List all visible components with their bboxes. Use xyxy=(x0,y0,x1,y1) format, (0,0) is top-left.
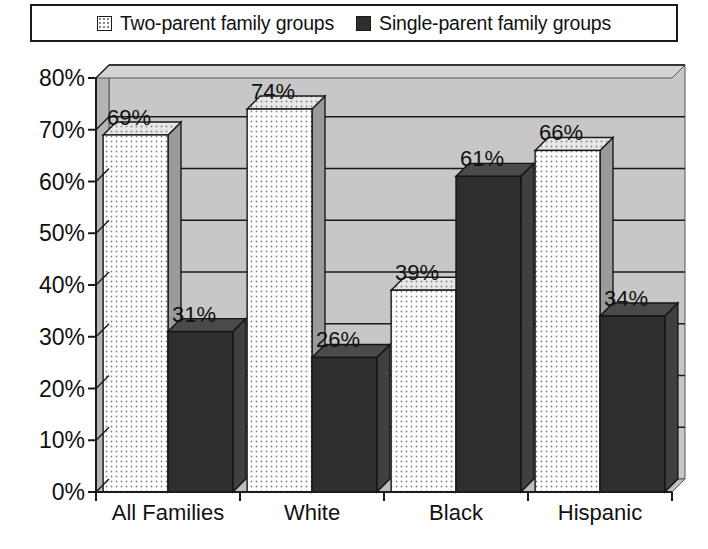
y-axis-tick-label: 70% xyxy=(5,118,85,141)
value-label-black-two-parent: 39% xyxy=(383,260,451,286)
value-label-white-single-parent: 26% xyxy=(304,327,372,353)
y-axis-tick-label: 60% xyxy=(5,170,85,193)
value-label-hispanic-single-parent: 34% xyxy=(592,286,660,312)
y-axis-tick-label: 50% xyxy=(5,222,85,245)
x-axis-tick-label-black: Black xyxy=(384,500,528,526)
value-label-all-families-two-parent: 69% xyxy=(95,105,163,131)
y-axis-tick-label: 10% xyxy=(5,429,85,452)
x-axis-tick-label-hispanic: Hispanic xyxy=(528,500,672,526)
x-axis-tick-label-white: White xyxy=(240,500,384,526)
x-axis-tick-label-all-families: All Families xyxy=(96,500,240,526)
y-axis-tick-label: 20% xyxy=(5,377,85,400)
value-label-hispanic-two-parent: 66% xyxy=(527,120,595,146)
value-label-black-single-parent: 61% xyxy=(448,146,516,172)
value-label-white-two-parent: 74% xyxy=(239,79,307,105)
y-axis-tick-label: 80% xyxy=(5,67,85,90)
y-axis-tick-label: 0% xyxy=(5,481,85,504)
y-axis-tick-label: 30% xyxy=(5,325,85,348)
value-label-all-families-single-parent: 31% xyxy=(160,302,228,328)
y-axis-tick-label: 40% xyxy=(5,274,85,297)
bar-chart: 0%10%20%30%40%50%60%70%80%All FamiliesWh… xyxy=(0,0,708,549)
